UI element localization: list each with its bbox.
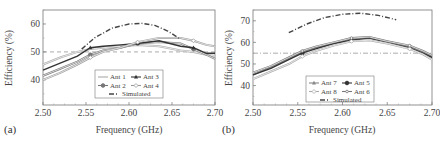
data-point-ant-6 (350, 37, 353, 40)
x-tick-label: 2.65 (379, 108, 396, 118)
y-tick-label: 50 (241, 59, 251, 69)
y-tick-label: 70 (241, 16, 251, 26)
data-point-ant-6 (301, 50, 304, 53)
legend-label: Ant 8 (321, 88, 337, 96)
legend-b: Ant 7Ant 5Ant 8Ant 6Simulated (306, 76, 374, 104)
y-axis-title-a: Efficiency (%) (4, 30, 15, 86)
x-axis-title-a: Frequency (GHz) (96, 125, 163, 136)
legend-label: Ant 6 (354, 88, 370, 96)
y-tick-label: 50 (31, 47, 41, 57)
x-tick-label: 2.65 (164, 108, 181, 118)
legend-label: Ant 3 (143, 73, 159, 81)
x-tick-label: 2.70 (207, 108, 224, 118)
legend-label: Ant 5 (354, 79, 370, 87)
y-tick-label: 60 (31, 19, 41, 29)
panel-label-b: (b) (222, 123, 235, 136)
y-tick-label: 40 (241, 81, 251, 91)
y-tick-label: 40 (31, 75, 41, 85)
x-tick-label: 2.50 (35, 108, 52, 118)
chart-panel-a: Efficiency (%) Frequency (GHz) (a) 2.502… (4, 10, 224, 136)
y-axis-title-b: Efficiency (%) (224, 30, 235, 86)
x-tick-label: 2.55 (78, 108, 95, 118)
series-line-simulated (289, 13, 396, 33)
legend-marker (345, 81, 349, 85)
legend-label: Ant 7 (321, 79, 337, 87)
legend-marker (346, 90, 349, 93)
x-tick-label: 2.60 (334, 108, 351, 118)
y-tick-label: 60 (241, 38, 251, 48)
data-point-ant-6 (408, 44, 411, 47)
x-tick-label: 2.55 (289, 108, 306, 118)
chart-panel-b: Efficiency (%) Frequency (GHz) (b) 2.502… (222, 10, 440, 136)
plot-area-a: 2.502.552.602.652.70405060 (31, 10, 224, 118)
x-tick-label: 2.50 (245, 108, 262, 118)
panel-label-a: (a) (4, 123, 17, 136)
legend-label: Simulated (122, 90, 151, 98)
x-tick-label: 2.60 (121, 108, 138, 118)
legend-marker (101, 84, 105, 88)
legend-label: Ant 1 (110, 73, 126, 81)
x-tick-label: 2.70 (424, 108, 440, 118)
legend-label: Simulated (333, 96, 362, 104)
legend-a: Ant 1Ant 3Ant 2Ant 4Simulated (95, 70, 163, 98)
efficiency-figure: Efficiency (%) Frequency (GHz) (a) 2.502… (0, 0, 440, 144)
legend-label: Ant 2 (110, 82, 126, 90)
legend-label: Ant 4 (143, 82, 159, 90)
x-axis-title-b: Frequency (GHz) (309, 125, 376, 136)
